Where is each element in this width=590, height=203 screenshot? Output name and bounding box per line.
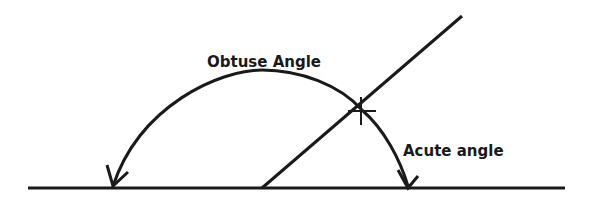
obtuse-arc (113, 70, 362, 186)
arrowhead-right-icon (398, 170, 418, 188)
obtuse-angle-label: Obtuse Angle (207, 53, 321, 71)
acute-angle-label: Acute angle (403, 142, 504, 160)
angle-diagram: Obtuse Angle Acute angle (0, 0, 590, 203)
